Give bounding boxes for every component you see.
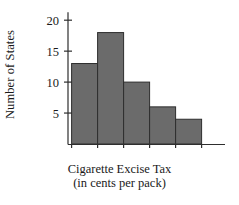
x-axis-title-line1: Cigarette Excise Tax (0, 162, 239, 177)
y-axis-tick-label: 10 (47, 76, 60, 90)
bars-group (72, 33, 202, 144)
y-axis-tick-label: 20 (47, 14, 60, 28)
y-axis-tick-label: 5 (53, 107, 59, 121)
x-axis-title-line2: (in cents per pack) (0, 176, 239, 191)
histogram-figure: Number of States 5101520 020406080100 Ci… (0, 0, 239, 205)
histogram-bar (176, 119, 202, 144)
histogram-bar (124, 82, 150, 144)
y-axis-title: Number of States (0, 0, 22, 148)
y-axis-title-text: Number of States (4, 29, 19, 118)
y-tick-labels-group: 5101520 (47, 14, 60, 121)
histogram-bar (98, 33, 124, 144)
y-axis-tick-label: 15 (47, 45, 60, 59)
plot-area: 5101520 020406080100 (22, 8, 227, 148)
histogram-bar (72, 64, 98, 144)
histogram-svg: 5101520 020406080100 (22, 8, 227, 148)
x-axis-title: Cigarette Excise Tax (in cents per pack) (0, 162, 239, 191)
histogram-bar (150, 107, 176, 144)
